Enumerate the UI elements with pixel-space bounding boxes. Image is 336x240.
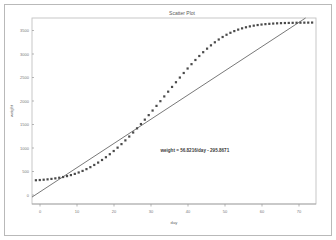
data-point	[276, 22, 278, 24]
data-point	[292, 22, 294, 24]
x-tick-label: 30	[149, 209, 154, 214]
data-point	[194, 59, 196, 61]
data-point	[260, 23, 262, 25]
y-tick-label: 1500	[20, 122, 30, 127]
data-point	[105, 156, 107, 158]
data-point	[214, 41, 216, 43]
data-point	[295, 22, 297, 24]
data-point	[113, 150, 115, 152]
data-point	[183, 72, 185, 74]
data-point	[272, 22, 274, 24]
y-tick-label: 500	[22, 169, 29, 174]
scatter-plot-figure: Scatter Plot 0 500 1000 1500 2000 2500 3…	[0, 0, 336, 240]
data-point	[198, 55, 200, 57]
data-point	[93, 164, 95, 166]
data-point	[144, 119, 146, 121]
data-point	[97, 161, 99, 163]
data-point	[128, 135, 130, 137]
data-point	[163, 95, 165, 97]
data-point	[120, 143, 122, 145]
x-tick-label: 70	[297, 209, 302, 214]
data-point	[148, 114, 150, 116]
data-point	[311, 21, 313, 23]
y-tick-label: 1000	[20, 146, 30, 151]
y-tick-labels: 0 500 1000 1500 2000 2500 3000 3500	[20, 28, 30, 198]
x-tick-label: 20	[112, 209, 117, 214]
regression-line	[32, 18, 306, 197]
data-point	[140, 123, 142, 125]
x-tick-labels: 0 10 20 30 40 50 60 70	[39, 209, 302, 214]
data-point	[74, 173, 76, 175]
data-point	[288, 22, 290, 24]
x-tick-label: 50	[223, 209, 228, 214]
x-axis-title: day	[171, 220, 179, 225]
data-point	[206, 48, 208, 50]
x-tick-label: 60	[260, 209, 265, 214]
data-point	[257, 24, 259, 26]
data-point	[264, 23, 266, 25]
regression-line-path	[32, 18, 306, 197]
chart-title: Scatter Plot	[169, 10, 195, 16]
chart-canvas: Scatter Plot 0 500 1000 1500 2000 2500 3…	[0, 0, 336, 240]
data-point	[253, 25, 255, 27]
chart-screenshot: Scatter Plot 0 500 1000 1500 2000 2500 3…	[0, 0, 336, 240]
data-point	[229, 32, 231, 34]
data-point	[187, 67, 189, 69]
data-point	[245, 26, 247, 28]
data-point	[218, 38, 220, 40]
data-point	[124, 139, 126, 141]
data-point	[85, 168, 87, 170]
y-tick-label: 3000	[20, 52, 30, 57]
y-tick-label: 2500	[20, 75, 30, 80]
y-axis-title: weight	[9, 104, 14, 117]
data-point	[303, 22, 305, 24]
data-point	[58, 177, 60, 179]
data-point	[159, 100, 161, 102]
y-tick-label: 3500	[20, 28, 30, 33]
data-point	[66, 175, 68, 177]
x-tick-label: 10	[75, 209, 80, 214]
data-point	[70, 174, 72, 176]
data-point	[299, 22, 301, 24]
data-point	[155, 105, 157, 107]
y-tick-label: 2000	[20, 99, 30, 104]
data-point	[132, 131, 134, 133]
data-point	[284, 22, 286, 24]
data-point	[179, 76, 181, 78]
data-point	[116, 147, 118, 149]
y-tick-label: 0	[27, 193, 30, 198]
data-point	[222, 36, 224, 38]
data-point	[202, 51, 204, 53]
data-point	[280, 22, 282, 24]
data-point	[249, 25, 251, 27]
data-point	[237, 29, 239, 31]
data-point	[171, 86, 173, 88]
data-point	[233, 30, 235, 32]
data-point	[167, 91, 169, 93]
data-point	[190, 63, 192, 65]
x-tick-label: 0	[39, 209, 42, 214]
regression-equation-label: weight = 56.8216/day - 295.8671	[159, 148, 229, 153]
data-point	[46, 178, 48, 180]
data-point	[136, 127, 138, 129]
data-point	[89, 166, 91, 168]
data-point	[175, 81, 177, 83]
data-point	[43, 179, 45, 181]
data-point	[307, 22, 309, 24]
data-point	[81, 170, 83, 172]
data-point	[50, 178, 52, 180]
data-point	[109, 153, 111, 155]
data-point	[101, 159, 103, 161]
scatter-points	[35, 21, 313, 181]
data-point	[78, 171, 80, 173]
data-point	[62, 176, 64, 178]
data-point	[54, 177, 56, 179]
x-axis: 0 10 20 30 40 50 60 70 day	[32, 204, 316, 225]
data-point	[268, 23, 270, 25]
data-point	[39, 179, 41, 181]
y-axis: 0 500 1000 1500 2000 2500 3000 3500	[9, 28, 34, 198]
plot-frame	[32, 18, 316, 204]
data-point	[210, 44, 212, 46]
data-point	[225, 34, 227, 36]
data-point	[241, 27, 243, 29]
